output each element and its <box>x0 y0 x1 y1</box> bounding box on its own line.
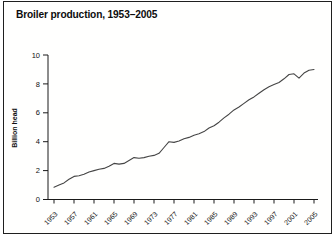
axes <box>48 55 318 200</box>
x-tick-label: 1953 <box>43 210 59 226</box>
x-tick-label: 1973 <box>143 210 159 226</box>
x-tick-label: 2001 <box>283 210 299 226</box>
x-tick-label: 1977 <box>163 210 179 226</box>
y-tick-label: 6 <box>36 108 40 117</box>
y-tick-label: 2 <box>36 166 40 175</box>
y-tick-label: 10 <box>32 51 40 60</box>
production-line <box>54 70 314 188</box>
x-tick-label: 1957 <box>63 210 79 226</box>
x-tick-label: 1961 <box>83 210 99 226</box>
x-tick-label: 1985 <box>203 210 219 226</box>
x-tick-label: 1997 <box>263 210 279 226</box>
y-tick-label: 0 <box>36 195 40 204</box>
x-tick-label: 1969 <box>123 210 139 226</box>
x-tick-label: 1965 <box>103 210 119 226</box>
y-axis-title: Billion head <box>11 108 18 148</box>
x-tick-label: 1993 <box>243 210 259 226</box>
x-tick-label: 1989 <box>223 210 239 226</box>
y-tick-label: 8 <box>36 80 40 89</box>
line-chart: 0246810195319571961196519691973197719811… <box>0 0 335 238</box>
y-tick-label: 4 <box>36 137 40 146</box>
x-axis: 1953195719611965196919731977198119851989… <box>43 200 319 227</box>
y-axis: 0246810 <box>32 51 48 205</box>
x-tick-label: 2005 <box>303 210 319 226</box>
x-tick-label: 1981 <box>183 210 199 226</box>
